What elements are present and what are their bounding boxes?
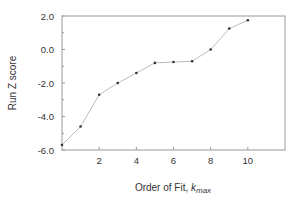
data-point-marker (135, 72, 138, 75)
x-tick-label: 10 (243, 155, 254, 166)
line-chart: -6.0-4.0-2.00.02.0 246810 Run Z score Or… (0, 0, 300, 207)
y-axis-label: Run Z score (7, 55, 18, 110)
data-point-marker (228, 27, 231, 30)
data-point-marker (247, 19, 250, 22)
x-tick-label: 6 (171, 155, 176, 166)
data-point-marker (79, 125, 82, 128)
series-line (62, 20, 248, 145)
y-tick-label: -4.0 (38, 111, 54, 122)
plot-frame (62, 16, 285, 150)
data-series (61, 19, 249, 146)
data-point-marker (116, 82, 119, 85)
x-tick-label: 8 (208, 155, 213, 166)
data-point-marker (154, 62, 157, 65)
y-tick-label: -6.0 (38, 145, 54, 156)
y-tick-label: -2.0 (38, 78, 54, 89)
data-point-marker (191, 60, 194, 63)
data-point-marker (98, 93, 101, 96)
x-axis-label: Order of Fit, kmax (135, 182, 212, 195)
data-point-marker (209, 48, 212, 51)
data-point-marker (172, 61, 175, 64)
y-tick-label: 2.0 (41, 11, 54, 22)
y-axis: -6.0-4.0-2.00.02.0 (38, 11, 65, 156)
plot-border (62, 16, 285, 150)
chart: -6.0-4.0-2.00.02.0 246810 Run Z score Or… (0, 0, 300, 207)
data-point-marker (61, 144, 64, 147)
x-tick-label: 2 (97, 155, 102, 166)
y-tick-label: 0.0 (41, 44, 54, 55)
x-tick-label: 4 (134, 155, 139, 166)
